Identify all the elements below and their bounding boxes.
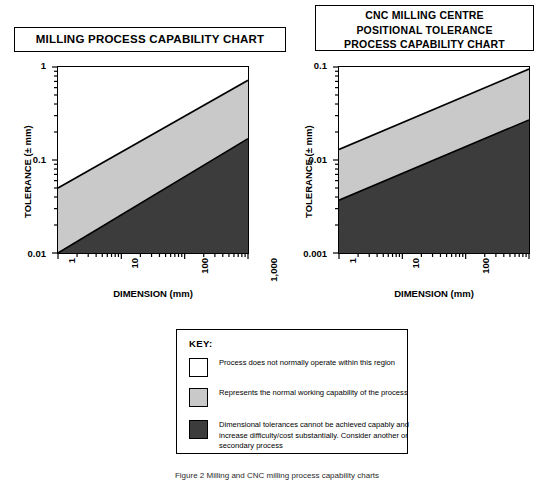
y-axis-label-left: TOLERANCE (± mm) xyxy=(22,125,33,218)
y-tick-left-0: 0.01 xyxy=(10,248,46,259)
plot-svg-cnc xyxy=(339,67,529,253)
key-label-light-gray: Represents the normal working capability… xyxy=(219,388,409,399)
key-label-dark-gray: Dimensional tolerances cannot be achieve… xyxy=(219,420,409,452)
key-legend-box: KEY: Process does not normally operate w… xyxy=(176,329,408,454)
x-axis-label-left: DIMENSION (mm) xyxy=(57,288,249,299)
chart-title-cnc: CNC MILLING CENTRE POSITIONAL TOLERANCE … xyxy=(315,5,534,51)
key-swatch-dark-gray xyxy=(189,420,208,439)
plot-area-milling xyxy=(57,66,249,254)
y-axis-label-right: TOLERANCE (± mm) xyxy=(303,125,314,218)
chart-title-milling: MILLING PROCESS CAPABILITY CHART xyxy=(14,27,286,52)
key-swatch-light-gray xyxy=(189,388,208,407)
key-title: KEY: xyxy=(189,338,213,349)
y-tick-right-2: 0.1 xyxy=(285,60,327,71)
x-tick-left-1: 10 xyxy=(129,258,140,286)
x-axis-label-right: DIMENSION (mm) xyxy=(338,288,530,299)
chart-title-cnc-line-2: POSITIONAL TOLERANCE xyxy=(316,23,533,38)
x-tick-right-1: 10 xyxy=(410,258,421,286)
x-tick-left-0: 1 xyxy=(66,258,77,286)
y-tick-left-1: 0.1 xyxy=(10,154,46,165)
chart-title-milling-line-1: MILLING PROCESS CAPABILITY CHART xyxy=(15,28,285,51)
x-tick-left-3: 1,000 xyxy=(268,258,279,298)
chart-title-cnc-line-1: CNC MILLING CENTRE xyxy=(316,8,533,23)
y-tick-right-1: 0.01 xyxy=(285,154,327,165)
chart-title-cnc-line-3: PROCESS CAPABILITY CHART xyxy=(316,37,533,52)
x-tick-right-0: 1 xyxy=(347,258,358,286)
y-tick-left-2: 1 xyxy=(10,60,46,71)
figure-page: MILLING PROCESS CAPABILITY CHART TOLERAN… xyxy=(0,0,544,482)
plot-svg-milling xyxy=(58,67,248,253)
y-tick-right-0: 0.001 xyxy=(285,248,327,259)
x-tick-left-2: 100 xyxy=(199,258,210,292)
key-swatch-white xyxy=(189,358,208,377)
x-tick-right-2: 100 xyxy=(480,258,491,292)
key-label-white: Process does not normally operate within… xyxy=(219,358,409,369)
plot-area-cnc xyxy=(338,66,530,254)
figure-caption: Figure 2 Milling and CNC milling process… xyxy=(62,470,492,481)
